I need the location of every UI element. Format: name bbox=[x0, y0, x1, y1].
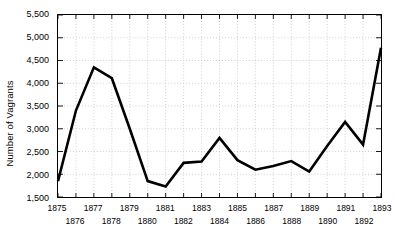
y-tick-label: 4,000 bbox=[26, 78, 49, 88]
x-tick-label: 1878 bbox=[102, 216, 121, 226]
x-tick-label: 1882 bbox=[174, 216, 193, 226]
y-tick-label: 1,500 bbox=[26, 193, 49, 203]
x-tick-label: 1889 bbox=[300, 203, 319, 213]
vagrants-line-chart: Number of Vagrants 1,5002,0002,5003,0003… bbox=[0, 0, 397, 247]
x-tick-label: 1891 bbox=[336, 203, 355, 213]
x-tick-label: 1876 bbox=[66, 216, 85, 226]
x-tick-label: 1887 bbox=[264, 203, 283, 213]
x-tick-label: 1875 bbox=[48, 203, 67, 213]
x-tick-label: 1881 bbox=[156, 203, 175, 213]
x-tick-label: 1886 bbox=[246, 216, 265, 226]
x-tick-label: 1879 bbox=[120, 203, 139, 213]
y-tick-label: 2,500 bbox=[26, 147, 49, 157]
y-tick-label: 4,500 bbox=[26, 55, 49, 65]
plot-area bbox=[57, 14, 382, 198]
x-tick-label: 1892 bbox=[354, 216, 373, 226]
y-tick-label: 3,000 bbox=[26, 124, 49, 134]
y-tick-label: 3,500 bbox=[26, 101, 49, 111]
data-series-line bbox=[58, 15, 381, 197]
x-tick-label: 1885 bbox=[228, 203, 247, 213]
y-tick-label: 2,000 bbox=[26, 170, 49, 180]
y-tick-label: 5,500 bbox=[26, 9, 49, 19]
x-tick-label: 1877 bbox=[84, 203, 103, 213]
x-tick-label: 1880 bbox=[138, 216, 157, 226]
x-tick-label: 1888 bbox=[282, 216, 301, 226]
x-tick-label: 1890 bbox=[318, 216, 337, 226]
x-tick-label: 1883 bbox=[192, 203, 211, 213]
x-tick-label: 1884 bbox=[210, 216, 229, 226]
x-tick-label: 1893 bbox=[373, 203, 392, 213]
y-tick-label: 5,000 bbox=[26, 32, 49, 42]
